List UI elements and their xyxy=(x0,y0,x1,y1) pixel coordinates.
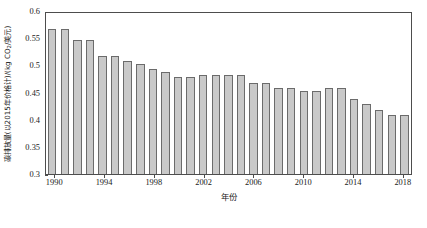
bar xyxy=(362,104,370,174)
bar xyxy=(249,83,257,174)
bar xyxy=(161,72,169,174)
y-axis-title-subscript: 2 xyxy=(6,45,12,48)
x-axis-tick-mark xyxy=(204,175,205,178)
bar xyxy=(199,75,207,174)
bar xyxy=(123,61,131,174)
bar xyxy=(174,77,182,174)
bar xyxy=(375,110,383,174)
x-axis-tick-mark xyxy=(104,175,105,178)
bar xyxy=(212,75,220,174)
x-axis-title: 年份 xyxy=(45,190,412,202)
bar xyxy=(136,64,144,174)
bar xyxy=(149,69,157,174)
bar xyxy=(287,88,295,174)
x-axis-tick-mark xyxy=(54,175,55,178)
y-axis-tick-label: 0.6 xyxy=(0,7,45,17)
y-axis-tick-label: 0.5 xyxy=(0,61,45,71)
x-axis-tick-mark xyxy=(253,175,254,178)
bar-series xyxy=(46,13,411,174)
bar xyxy=(350,99,358,174)
bar xyxy=(262,83,270,174)
x-axis-tick-label: 1994 xyxy=(84,178,124,187)
x-axis-tick-label: 2006 xyxy=(233,178,273,187)
x-axis-tick-label: 2010 xyxy=(283,178,323,187)
y-axis-tick-label: 0.55 xyxy=(0,34,45,44)
bar xyxy=(400,115,408,174)
bar xyxy=(224,75,232,174)
bar xyxy=(73,40,81,174)
x-axis-tick-mark xyxy=(303,175,304,178)
x-axis-tick-mark xyxy=(403,175,404,178)
x-axis-tick-label: 2002 xyxy=(184,178,224,187)
bar xyxy=(312,91,320,174)
bar xyxy=(388,115,396,174)
carbon-intensity-bar-chart: 碳排放量(以2015年价格计)/(kg CO2/美元) 0.30.350.40.… xyxy=(0,0,427,228)
y-axis-tick-label: 0.35 xyxy=(0,143,45,153)
bar xyxy=(274,88,282,174)
bar xyxy=(337,88,345,174)
x-axis-tick-label: 1990 xyxy=(34,178,74,187)
x-axis-tick-label: 2014 xyxy=(333,178,373,187)
bar xyxy=(48,29,56,174)
bar xyxy=(98,56,106,174)
y-axis-tick-label: 0.4 xyxy=(0,116,45,126)
bar xyxy=(300,91,308,174)
y-axis-tick-mark xyxy=(45,175,48,176)
bar xyxy=(61,29,69,174)
x-axis-tick-label: 2018 xyxy=(383,178,423,187)
x-axis-tick-mark xyxy=(353,175,354,178)
plot-area xyxy=(45,12,412,175)
bar xyxy=(86,40,94,174)
bar xyxy=(325,88,333,174)
bar xyxy=(237,75,245,174)
bar xyxy=(186,77,194,174)
x-axis-tick-mark xyxy=(154,175,155,178)
y-axis-tick-label: 0.45 xyxy=(0,89,45,99)
x-axis-tick-label: 1998 xyxy=(134,178,174,187)
bar xyxy=(111,56,119,174)
